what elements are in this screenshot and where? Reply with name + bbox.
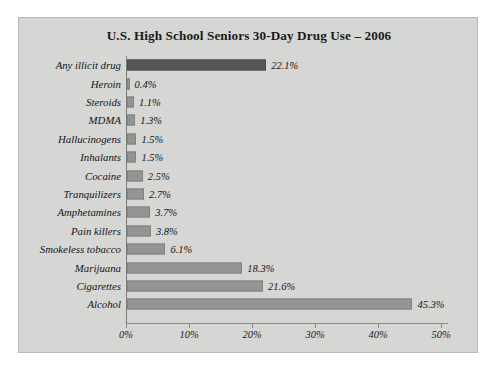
bar [127, 244, 165, 255]
x-axis-tick-label: 20% [242, 329, 261, 340]
bar-row: Cigarettes21.6% [126, 277, 448, 295]
bar [127, 225, 151, 236]
category-label: Tranquilizers [63, 188, 121, 200]
bar-value-label: 1.5% [141, 133, 163, 144]
category-label: Hallucinogens [58, 133, 121, 145]
bar [127, 299, 412, 310]
bar [127, 280, 263, 291]
bar-value-label: 45.3% [417, 299, 444, 310]
bar-row: Inhalants1.5% [126, 148, 448, 166]
x-axis-tick [378, 324, 379, 328]
x-axis-tick [315, 324, 316, 328]
bar-value-label: 3.7% [155, 207, 177, 218]
bar-value-label: 22.1% [271, 60, 298, 71]
bar-row: Tranquilizers2.7% [126, 185, 448, 203]
bar [127, 262, 242, 273]
bar-row: Pain killers3.8% [126, 222, 448, 240]
bar-row: Hallucinogens1.5% [126, 130, 448, 148]
bar-value-label: 3.8% [156, 225, 178, 236]
category-label: Any illicit drug [56, 59, 121, 71]
bar-value-label: 18.3% [247, 262, 274, 273]
bar-row: Smokeless tobacco6.1% [126, 240, 448, 258]
bar [127, 170, 143, 181]
bar [127, 60, 266, 71]
category-label: Cigarettes [76, 280, 121, 292]
bar [127, 96, 134, 107]
plot-area: 0%10%20%30%40%50% Any illicit drug22.1%H… [126, 56, 459, 344]
x-axis-tick [126, 324, 127, 328]
chart-panel: U.S. High School Seniors 30-Day Drug Use… [18, 17, 478, 353]
chart-title: U.S. High School Seniors 30-Day Drug Use… [19, 28, 479, 44]
x-axis-tick-label: 40% [368, 329, 387, 340]
bar [127, 152, 136, 163]
bar-row: Marijuana18.3% [126, 258, 448, 276]
bar-row: Alcohol45.3% [126, 295, 448, 313]
bar-value-label: 2.5% [148, 170, 170, 181]
bar [127, 115, 135, 126]
x-axis-tick-label: 10% [179, 329, 198, 340]
bar [127, 78, 130, 89]
bar-row: Any illicit drug22.1% [126, 56, 448, 74]
bar-row: MDMA1.3% [126, 111, 448, 129]
category-label: Cocaine [85, 170, 121, 182]
bar-value-label: 21.6% [268, 280, 295, 291]
bar-row: Heroin0.4% [126, 74, 448, 92]
bar-row: Steroids1.1% [126, 93, 448, 111]
x-axis-tick-label: 30% [305, 329, 324, 340]
category-label: Pain killers [71, 225, 121, 237]
category-label: MDMA [89, 114, 121, 126]
category-label: Smokeless tobacco [40, 243, 121, 255]
bar-row: Amphetamines3.7% [126, 203, 448, 221]
bar-value-label: 2.7% [149, 188, 171, 199]
x-axis-tick [189, 324, 190, 328]
category-label: Steroids [86, 96, 121, 108]
bar-value-label: 1.3% [140, 115, 162, 126]
bar [127, 188, 144, 199]
x-axis-tick [441, 324, 442, 328]
x-axis-tick-label: 0% [119, 329, 133, 340]
bar-value-label: 1.1% [139, 96, 161, 107]
bar-value-label: 0.4% [135, 78, 157, 89]
bar-row: Cocaine2.5% [126, 166, 448, 184]
x-axis-tick-label: 50% [431, 329, 450, 340]
x-axis-tick [252, 324, 253, 328]
category-label: Alcohol [87, 298, 121, 310]
bar [127, 133, 136, 144]
bar-value-label: 1.5% [141, 152, 163, 163]
bar [127, 207, 150, 218]
category-label: Amphetamines [57, 206, 121, 218]
category-label: Inhalants [80, 151, 121, 163]
category-label: Marijuana [75, 262, 121, 274]
x-axis-line [126, 323, 448, 324]
category-label: Heroin [91, 78, 121, 90]
bar-value-label: 6.1% [170, 244, 192, 255]
